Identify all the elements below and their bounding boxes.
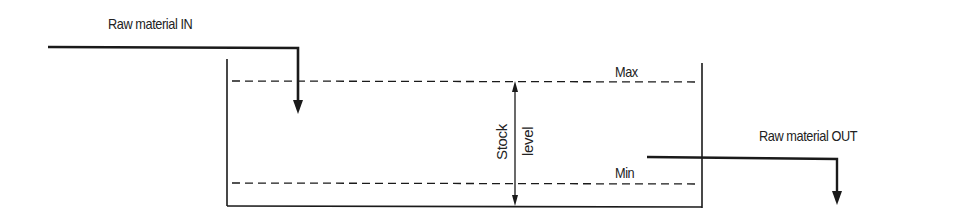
label-raw-material-out: Raw material OUT bbox=[759, 127, 857, 144]
out-arrowhead-icon bbox=[832, 191, 842, 205]
arrow-up-icon bbox=[512, 81, 518, 92]
out-arrow bbox=[647, 157, 842, 205]
max-level-line bbox=[232, 81, 700, 82]
label-level: level bbox=[519, 127, 536, 156]
arrow-down-icon bbox=[512, 195, 518, 206]
label-min: Min bbox=[615, 164, 634, 181]
in-arrowhead-icon bbox=[293, 100, 303, 114]
min-level-line bbox=[232, 183, 700, 184]
label-stock: Stock bbox=[493, 124, 510, 160]
label-max: Max bbox=[615, 63, 638, 80]
label-raw-material-in: Raw material IN bbox=[108, 15, 192, 32]
stock-level-arrow bbox=[512, 81, 518, 206]
tank-bottom bbox=[227, 206, 702, 207]
stock-diagram bbox=[0, 0, 961, 218]
